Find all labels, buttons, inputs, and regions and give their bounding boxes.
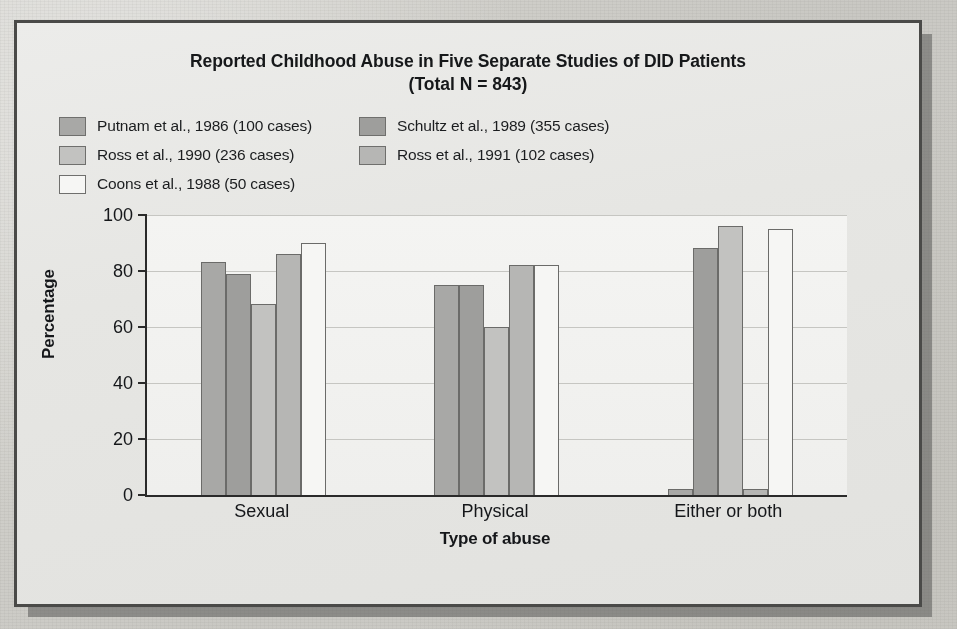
y-axis-tick xyxy=(138,438,147,441)
bar xyxy=(484,327,509,495)
legend-item-schultz-1989: Schultz et al., 1989 (355 cases) xyxy=(359,117,659,136)
bar xyxy=(201,262,226,494)
bar xyxy=(768,229,793,495)
legend-swatch-icon xyxy=(59,117,86,136)
bar xyxy=(693,248,718,494)
plot-wrapper: Percentage 020406080100 SexualPhysicalEi… xyxy=(17,209,919,539)
y-axis-tick-label: 80 xyxy=(113,260,133,281)
bar xyxy=(718,226,743,495)
x-axis-tick-label: Either or both xyxy=(612,501,845,522)
legend-item-coons-1988: Coons et al., 1988 (50 cases) xyxy=(59,175,359,194)
y-axis-tick xyxy=(138,326,147,329)
x-axis-title: Type of abuse xyxy=(145,529,845,549)
bar xyxy=(534,265,559,495)
plot-area: 020406080100 xyxy=(145,215,847,497)
bar xyxy=(301,243,326,495)
y-axis-tick xyxy=(138,382,147,385)
bar xyxy=(226,274,251,495)
bar-group-either-or-both xyxy=(614,215,847,495)
y-axis-tick xyxy=(138,214,147,217)
x-axis-tick-labels: SexualPhysicalEither or both xyxy=(145,501,845,522)
y-axis-title: Percentage xyxy=(39,269,59,359)
legend-item-label: Ross et al., 1990 (236 cases) xyxy=(97,146,294,164)
bar xyxy=(509,265,534,495)
bar xyxy=(743,489,768,495)
bar-group-physical xyxy=(380,215,613,495)
chart-title: Reported Childhood Abuse in Five Separat… xyxy=(71,50,865,72)
bar xyxy=(668,489,693,495)
bar xyxy=(459,285,484,495)
y-axis-tick-label: 40 xyxy=(113,372,133,393)
legend-item-putnam-1986: Putnam et al., 1986 (100 cases) xyxy=(59,117,359,136)
x-axis-tick-label: Sexual xyxy=(145,501,378,522)
y-axis-tick-label: 60 xyxy=(113,316,133,337)
y-axis-tick-label: 100 xyxy=(103,204,133,225)
figure-card: Reported Childhood Abuse in Five Separat… xyxy=(14,20,922,607)
legend-swatch-icon xyxy=(59,175,86,194)
legend-swatch-icon xyxy=(359,146,386,165)
y-axis-tick-label: 0 xyxy=(123,484,133,505)
bar xyxy=(251,304,276,494)
y-axis-tick-label: 20 xyxy=(113,428,133,449)
legend-item-ross-1991: Ross et al., 1991 (102 cases) xyxy=(359,146,659,165)
chart-legend: Putnam et al., 1986 (100 cases) Schultz … xyxy=(59,112,759,199)
legend-item-label: Putnam et al., 1986 (100 cases) xyxy=(97,117,312,135)
legend-item-label: Coons et al., 1988 (50 cases) xyxy=(97,175,295,193)
chart-subtitle: (Total N = 843) xyxy=(17,73,919,95)
x-axis-tick-label: Physical xyxy=(378,501,611,522)
legend-item-label: Schultz et al., 1989 (355 cases) xyxy=(397,117,609,135)
bar xyxy=(276,254,301,495)
legend-item-label: Ross et al., 1991 (102 cases) xyxy=(397,146,594,164)
y-axis-tick xyxy=(138,270,147,273)
bar-group-sexual xyxy=(147,215,380,495)
legend-swatch-icon xyxy=(59,146,86,165)
y-axis-tick xyxy=(138,494,147,497)
bar xyxy=(434,285,459,495)
legend-swatch-icon xyxy=(359,117,386,136)
bar-groups xyxy=(147,215,847,495)
legend-item-ross-1990: Ross et al., 1990 (236 cases) xyxy=(59,146,359,165)
